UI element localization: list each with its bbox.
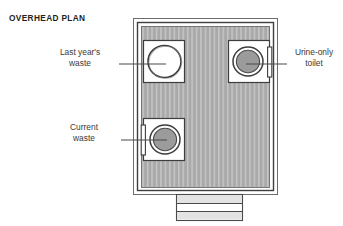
- floor-plan-drawing: [0, 0, 343, 226]
- callout-urine-only-toilet: Urine-only toilet: [286, 47, 342, 69]
- urine-only-toilet[interactable]: [229, 41, 272, 83]
- last-years-waste-chamber[interactable]: [144, 41, 185, 83]
- callout-last-years-waste: Last year's waste: [44, 47, 116, 69]
- entry-steps: [177, 195, 243, 221]
- overhead-plan-figure: OVERHEAD PLAN: [0, 0, 343, 226]
- callout-current-waste: Current waste: [50, 122, 118, 144]
